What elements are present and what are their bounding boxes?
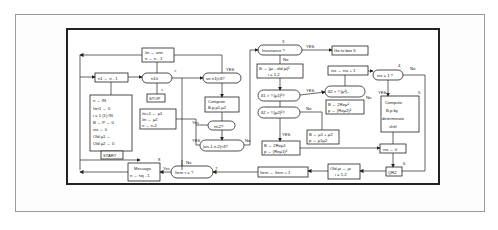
edge-no-3: No bbox=[306, 106, 312, 111]
invariance-label: Invariance ? bbox=[262, 48, 285, 53]
edge-yes-4: YES bbox=[306, 44, 315, 49]
flowchart: λn ← ann n ← n - 1 n1 ← n - 1 n10 > < ST… bbox=[0, 0, 498, 230]
lambda-line-1: λn ← μ2 bbox=[142, 117, 158, 122]
marker-7: 7 bbox=[215, 166, 218, 171]
init-line-2: i = 1 (1) IN bbox=[93, 113, 113, 118]
deflate-top-line1: λn ← ann bbox=[145, 50, 164, 55]
iter-inc-label: Itern ← Itern + 1 bbox=[260, 170, 291, 175]
lambda-line-2: n ← n-2 bbox=[142, 123, 158, 128]
stop-label: STOP bbox=[149, 96, 161, 101]
nix-zero-label: nix ← 0 bbox=[383, 147, 398, 152]
compute-mu-line1: Compute bbox=[208, 99, 226, 104]
edge-yes-2: Yes bbox=[192, 120, 199, 125]
bp-re1-line2: p ← (Reμ1)² bbox=[264, 149, 288, 154]
bp-sum-line1: B ← μ1 + μ2 bbox=[309, 132, 333, 137]
n1-box-label: n1 ← n - 1 bbox=[98, 76, 118, 81]
edge-yes-5: YES bbox=[306, 88, 315, 93]
delta-box-line2: i = 1,2 bbox=[268, 72, 280, 77]
qr2-label: QR2 bbox=[388, 170, 397, 175]
shift-line-0: Compute bbox=[385, 100, 403, 105]
edge-yes-8: Yes bbox=[163, 166, 170, 171]
start-label: START bbox=[103, 153, 117, 158]
marker-5: 5 bbox=[418, 90, 421, 95]
lambda-line-0: λn+1 ← μ1 bbox=[142, 111, 163, 116]
nix-inc-label: nix ← nix + 1 bbox=[331, 68, 356, 73]
init-line-5: Old μ1 ← bbox=[93, 134, 111, 139]
bp-re2-line1: B ← 2Reμ² bbox=[328, 102, 349, 107]
message-line2: n ← nq - 1 bbox=[130, 173, 150, 178]
marker-4: 4 bbox=[398, 63, 401, 68]
old-mu-line2: i = 1,2 bbox=[335, 172, 347, 177]
deflate-top-line2: n ← n - 1 bbox=[145, 56, 163, 61]
delta-x-label: δ2 > ¼|μ²|₂ bbox=[328, 89, 349, 94]
delta-box-line1: δi ← |μi - old μi|² bbox=[259, 66, 290, 71]
old-mu-line1: Old μi ← μi bbox=[330, 166, 351, 171]
edge-no-2: No bbox=[283, 57, 289, 62]
edge-yes-6: YES bbox=[282, 132, 291, 137]
shift-line-3: shift bbox=[389, 124, 398, 129]
gt-mark: > bbox=[174, 68, 177, 73]
init-line-6: Old μ2 ← 0 bbox=[93, 141, 115, 146]
marker-6: 6 bbox=[403, 161, 406, 166]
delta1-label: δ1 > ¼|μ1|²? bbox=[261, 93, 285, 98]
marker-8: 8 bbox=[158, 157, 161, 162]
cond-an-label: an n1|<δ? bbox=[206, 76, 225, 81]
bp-re2-line2: p ← (Reμ2)² bbox=[328, 108, 352, 113]
goto5-label: Go to box 5 bbox=[334, 48, 356, 53]
iter-check-label: Itern τ = ? bbox=[175, 170, 194, 175]
init-line-1: Iter1 ← 0 bbox=[93, 106, 111, 111]
message-line1: Message bbox=[134, 166, 152, 171]
init-line-0: n ← IN bbox=[93, 98, 106, 103]
shift-line-1: B,p by bbox=[386, 108, 399, 113]
bp-sum-line2: p ← μ1μ2 bbox=[309, 138, 328, 143]
n10-label: n10 bbox=[151, 76, 159, 81]
edge-no-5: No bbox=[410, 66, 416, 71]
edge-no-1: No bbox=[245, 138, 251, 143]
nix-check-label: nix = 1 ? bbox=[377, 73, 394, 78]
n2-label: n≤2? bbox=[214, 124, 224, 129]
shift-line-2: determinate bbox=[382, 116, 405, 121]
compute-mu-line2: B,p,μ1,μ2 bbox=[208, 105, 227, 110]
edge-yes-1: YES bbox=[226, 67, 235, 72]
init-line-3: B ← P ← 0 bbox=[93, 120, 115, 125]
delta2-label: δ2 > ¼|μ2|²? bbox=[261, 110, 285, 115]
marker-3: 3 bbox=[282, 39, 285, 44]
edge-no-4: No bbox=[366, 95, 372, 100]
cond-an-n2-label: |an-1 n-2|<δ? bbox=[203, 144, 229, 149]
edge-yes-7: YES bbox=[378, 90, 387, 95]
lt-mark: < bbox=[161, 87, 164, 92]
bp-re1-line1: B ← 2Reμ1 bbox=[264, 143, 286, 148]
init-line-4: nix ← 0 bbox=[93, 127, 108, 132]
edge-yes-3: YES bbox=[192, 138, 201, 143]
edge-no-6: No bbox=[186, 160, 192, 165]
